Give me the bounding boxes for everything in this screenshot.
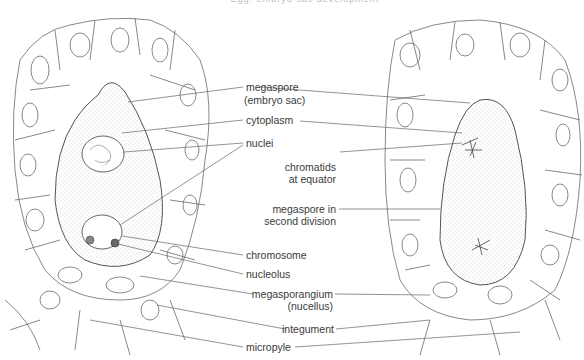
diagram-title: Egg: embryo sac development	[190, 0, 420, 4]
nucleus-upper	[82, 136, 124, 172]
nucleolus-dot	[111, 239, 119, 247]
label-megaspore: megaspore	[246, 81, 299, 93]
diagram: Egg: embryo sac development megaspore (e…	[0, 0, 584, 360]
label-micropyle: micropyle	[246, 341, 291, 353]
label-integument: integument	[282, 323, 334, 335]
label-second-division: second division	[246, 215, 336, 227]
label-nucellus: (nucellus)	[240, 300, 333, 312]
label-chromatids: chromatids	[270, 161, 336, 173]
label-at-equator: at equator	[270, 173, 336, 185]
label-cytoplasm: cytoplasm	[246, 114, 293, 126]
megaspore-right	[440, 99, 526, 285]
label-chromosome: chromosome	[246, 249, 307, 261]
chromosome-dot	[86, 236, 94, 244]
label-megasporangium: megasporangium	[240, 288, 333, 300]
label-nuclei: nuclei	[246, 137, 273, 149]
label-embryo-sac: (embryo sac)	[244, 94, 305, 106]
label-nucleolus: nucleolus	[246, 268, 290, 280]
label-megaspore-in: megaspore in	[246, 203, 336, 215]
